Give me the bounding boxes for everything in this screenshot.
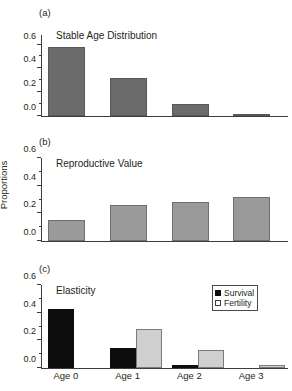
panel-c-ytick-label: 0.0 <box>23 355 36 364</box>
panel-b-ytick-major <box>37 240 41 241</box>
x-tick-label-2: Age 2 <box>177 371 202 381</box>
panel-c-ytick-label: 0.4 <box>23 299 36 308</box>
bar-3 <box>233 114 270 116</box>
panel-c-y-axis <box>41 285 42 369</box>
bar-fertility-2 <box>198 350 224 368</box>
bar-survival-2 <box>172 365 198 368</box>
bar-fertility-3 <box>259 365 285 368</box>
bar-0 <box>48 47 85 116</box>
bar-1 <box>110 78 147 116</box>
panel-a-ytick-label: 0.2 <box>23 79 36 88</box>
legend-label-fertility: Fertility <box>224 299 251 308</box>
panel-a-ytick-minor <box>39 55 42 56</box>
filled-square-icon <box>215 290 221 296</box>
panel-b-ytick-minor <box>39 226 42 227</box>
panel-a-ytick-label: 0.4 <box>23 55 36 64</box>
panel-b-ytick-label: 0.6 <box>23 145 36 154</box>
panel-a-ytick-minor <box>39 79 42 80</box>
panel-a-y-axis <box>41 35 42 117</box>
bar-survival-1 <box>110 348 136 368</box>
panel-b-ytick-label: 0.2 <box>23 200 36 209</box>
panel-c-ytick-major <box>37 312 41 313</box>
panel-b-ytick-minor <box>39 199 42 200</box>
panel-c-ytick-label: 0.6 <box>23 272 36 281</box>
bar-0 <box>48 220 85 241</box>
hollow-square-icon <box>215 300 221 306</box>
panel-b-y-axis <box>41 158 42 242</box>
panel-a-ytick-major <box>37 67 41 68</box>
panel-b-ytick-major <box>37 212 41 213</box>
panel-b-ytick-minor <box>39 171 42 172</box>
bar-survival-0 <box>48 309 74 368</box>
legend: Survival Fertility <box>212 285 258 311</box>
x-axis-labels: Age 0Age 1Age 2Age 3 <box>41 371 288 383</box>
bar-3 <box>233 197 270 241</box>
panel-c-ytick-major <box>37 339 41 340</box>
legend-item-fertility: Fertility <box>215 298 254 308</box>
panel-c-ytick-major <box>37 284 41 285</box>
panel-b-plot: 0.00.20.40.6 <box>41 158 288 242</box>
legend-label-survival: Survival <box>224 289 254 298</box>
panel-b-ytick-label: 0.4 <box>23 172 36 181</box>
bar-2 <box>172 104 209 116</box>
x-tick-label-3: Age 3 <box>239 371 264 381</box>
panel-b-ytick-major <box>37 157 41 158</box>
panel-a-ytick-label: 0.6 <box>23 31 36 40</box>
panel-c-ytick-major <box>37 367 41 368</box>
panel-b-ytick-label: 0.0 <box>23 228 36 237</box>
panel-b-x-axis <box>41 241 288 242</box>
bar-fertility-1 <box>136 329 162 368</box>
panel-a-ytick-major <box>37 91 41 92</box>
panel-a-ytick-minor <box>39 103 42 104</box>
panel-a-plot: 0.00.20.40.6 <box>41 35 288 117</box>
panel-a-ytick-major <box>37 115 41 116</box>
panel-c-ytick-minor <box>39 353 42 354</box>
x-tick-label-1: Age 1 <box>115 371 140 381</box>
panel-a: 0.00.20.40.6 <box>0 8 292 128</box>
panel-b-ytick-major <box>37 185 41 186</box>
panel-c-ytick-minor <box>39 298 42 299</box>
panel-c-ytick-minor <box>39 326 42 327</box>
legend-item-survival: Survival <box>215 288 254 298</box>
figure-container: Proportions (a) Stable Age Distribution … <box>0 0 292 391</box>
panel-c-x-axis <box>41 368 288 369</box>
x-tick-label-0: Age 0 <box>53 371 78 381</box>
panel-a-ytick-label: 0.0 <box>23 103 36 112</box>
panel-c-ytick-label: 0.2 <box>23 327 36 336</box>
panel-b: 0.00.20.40.6 <box>0 137 292 257</box>
bar-1 <box>110 205 147 241</box>
panel-a-ytick-major <box>37 44 41 45</box>
bar-2 <box>172 202 209 241</box>
panel-a-x-axis <box>41 116 288 117</box>
